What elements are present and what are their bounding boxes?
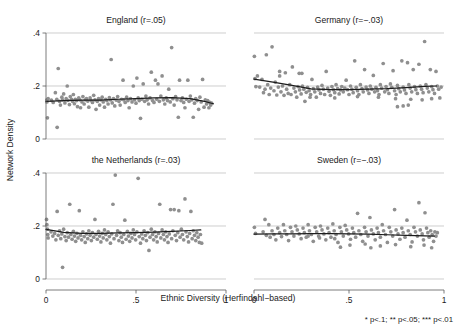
data-point — [152, 238, 156, 242]
data-point — [414, 230, 418, 234]
data-point — [299, 92, 303, 96]
data-point — [275, 93, 279, 97]
data-point — [349, 237, 353, 241]
data-point — [387, 225, 391, 229]
data-point — [197, 107, 201, 111]
data-point — [375, 226, 379, 230]
data-point — [370, 228, 374, 232]
data-point — [303, 100, 307, 104]
data-point — [154, 78, 158, 82]
data-point — [401, 104, 405, 108]
data-point — [338, 225, 342, 229]
data-point — [181, 233, 185, 237]
panel-title-sweden: Sweden (r=−.03) — [317, 155, 381, 165]
y-tick-label: 0 — [35, 134, 40, 144]
data-point — [323, 93, 327, 97]
panels-group: England (r=.05)0.2.4Germany (r=−.03)the … — [33, 15, 447, 305]
data-point — [311, 240, 315, 244]
panel-germany: Germany (r=−.03) — [253, 15, 444, 139]
data-point — [62, 92, 66, 96]
data-point — [354, 235, 358, 239]
data-point — [46, 97, 50, 101]
data-point — [406, 103, 410, 107]
data-point — [306, 234, 310, 238]
x-tick-label: 1 — [442, 295, 447, 305]
data-point — [422, 243, 426, 247]
data-point — [258, 85, 262, 89]
data-point — [345, 228, 349, 232]
data-point — [307, 89, 311, 93]
panel-netherlands: the Netherlands (r=.03)0.2.40.51 — [33, 155, 229, 305]
data-point — [176, 115, 180, 119]
data-point — [274, 238, 278, 242]
data-point — [141, 82, 145, 86]
data-point — [300, 71, 304, 75]
data-point — [301, 226, 305, 230]
data-points — [45, 46, 213, 129]
data-point — [384, 85, 388, 89]
data-point — [95, 237, 99, 241]
data-point — [188, 232, 192, 236]
data-point — [417, 201, 421, 205]
data-point — [72, 93, 76, 97]
data-point — [333, 237, 337, 241]
data-point — [55, 210, 59, 214]
data-point — [267, 93, 271, 97]
data-point — [158, 100, 162, 104]
data-point — [432, 240, 436, 244]
data-point — [149, 227, 153, 231]
data-point — [254, 85, 258, 89]
data-point — [330, 85, 334, 89]
data-point — [111, 202, 115, 206]
data-point — [391, 69, 395, 73]
data-point — [379, 83, 383, 87]
data-point — [364, 230, 368, 234]
data-point — [128, 240, 132, 244]
data-point — [425, 226, 429, 230]
data-point — [349, 84, 353, 88]
data-point — [195, 231, 199, 235]
data-point — [130, 236, 134, 240]
data-point — [263, 218, 267, 222]
data-point — [283, 229, 287, 233]
data-point — [416, 92, 420, 96]
data-point — [363, 242, 367, 246]
x-tick-label: .5 — [133, 295, 140, 305]
data-point — [154, 235, 158, 239]
data-point — [354, 85, 358, 89]
data-point — [436, 231, 440, 235]
data-point — [265, 53, 269, 57]
data-points — [253, 40, 443, 109]
data-point — [263, 87, 267, 91]
data-point — [420, 98, 424, 102]
data-point — [291, 65, 295, 69]
data-point — [396, 84, 400, 88]
data-point — [193, 101, 197, 105]
data-point — [368, 84, 372, 88]
data-point — [175, 239, 179, 243]
data-point — [131, 84, 135, 88]
data-point — [170, 237, 174, 241]
data-point — [68, 202, 72, 206]
data-point — [183, 106, 187, 110]
data-point — [308, 95, 312, 99]
data-point — [326, 226, 330, 230]
data-point — [53, 232, 57, 236]
data-point — [404, 92, 408, 96]
data-point — [253, 54, 257, 58]
data-point — [86, 237, 90, 241]
data-point — [347, 93, 351, 97]
data-point — [253, 225, 257, 229]
data-point — [106, 102, 110, 106]
data-point — [393, 89, 397, 93]
data-point — [81, 95, 85, 99]
data-point — [333, 91, 337, 95]
data-point — [155, 240, 159, 244]
data-point — [320, 84, 324, 88]
data-point — [149, 70, 153, 74]
data-point — [287, 239, 291, 243]
x-tick-label: 0 — [44, 295, 49, 305]
data-point — [62, 227, 66, 231]
data-point — [70, 237, 74, 241]
data-point — [112, 237, 116, 241]
